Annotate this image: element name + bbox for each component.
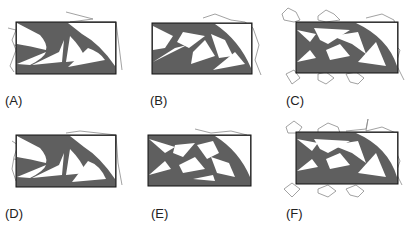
panel-e: (E) (135, 113, 271, 226)
panel-a: (A) (0, 0, 136, 113)
panel-f: (F) (270, 113, 406, 226)
panel-label-e: (E) (151, 206, 168, 221)
panel-c: (C) (270, 0, 406, 113)
panel-label-f: (F) (286, 206, 303, 221)
panel-label-d: (D) (5, 206, 23, 221)
panel-label-c: (C) (286, 93, 304, 108)
panel-b: (B) (135, 0, 271, 113)
panel-label-b: (B) (150, 93, 167, 108)
panel-label-a: (A) (5, 93, 22, 108)
panel-d: (D) (0, 113, 136, 226)
